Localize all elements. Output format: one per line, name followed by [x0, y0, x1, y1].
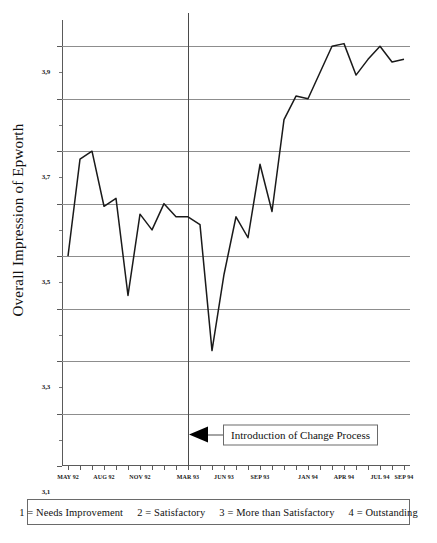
rating-scale-legend: 1 = Needs Improvement2 = Satisfactory3 =… [27, 499, 410, 525]
x-tick [224, 466, 225, 470]
x-tick [272, 466, 273, 470]
x-tick-label: JUN 93 [214, 474, 234, 480]
x-tick [212, 466, 213, 470]
arrow-left-icon [189, 427, 208, 443]
x-tick [284, 466, 285, 470]
x-tick [116, 466, 117, 470]
series-line-chart [62, 20, 410, 466]
annotation-connector [208, 434, 223, 435]
legend-entry: 2 = Satisfactory [137, 507, 205, 518]
legend-entry: 3 = More than Satisfactory [219, 507, 334, 518]
x-tick [380, 466, 381, 470]
x-tick [140, 466, 141, 470]
annotation-label: Introduction of Change Process [223, 424, 378, 445]
x-tick-label: AUG 92 [93, 474, 114, 480]
x-tick [248, 466, 249, 470]
x-tick [356, 466, 357, 470]
plot-area: 2,32,52,72,93,13,33,53,73,9 MAY 92AUG 92… [62, 20, 410, 466]
y-tick-label: 3,3 [42, 383, 50, 391]
x-tick-label: MAY 92 [57, 474, 79, 480]
x-tick [368, 466, 369, 470]
legend-entry: 1 = Needs Improvement [19, 507, 123, 518]
x-tick-label: JUL 94 [370, 474, 389, 480]
x-tick [332, 466, 333, 470]
x-tick-label: MAR 93 [177, 474, 199, 480]
x-tick-label: SEP 94 [395, 474, 414, 480]
x-tick [152, 466, 153, 470]
x-tick [404, 466, 405, 470]
legend-entry: 4 = Outstanding [349, 507, 418, 518]
chart-page: Overall Impression of Epworth 2,32,52,72… [0, 0, 437, 543]
x-tick [128, 466, 129, 470]
x-tick [68, 466, 69, 470]
x-tick [188, 466, 189, 470]
x-tick [164, 466, 165, 470]
y-axis-title: Overall Impression of Epworth [10, 10, 38, 430]
x-tick [392, 466, 393, 470]
y-tick-label: 3,7 [42, 173, 50, 181]
x-tick [344, 466, 345, 470]
y-tick-label: 3,5 [42, 278, 50, 286]
x-tick [176, 466, 177, 470]
x-tick [200, 466, 201, 470]
y-tick-label: 3,9 [42, 68, 50, 76]
x-tick [104, 466, 105, 470]
x-tick [296, 466, 297, 470]
y-tick: 2,3 [57, 466, 62, 467]
x-tick [260, 466, 261, 470]
x-tick [236, 466, 237, 470]
x-tick [92, 466, 93, 470]
change-process-annotation: Introduction of Change Process [189, 424, 378, 445]
x-tick [80, 466, 81, 470]
x-tick [308, 466, 309, 470]
x-tick [320, 466, 321, 470]
y-tick-label: 3,1 [42, 488, 50, 496]
series-line [68, 44, 404, 351]
x-tick-label: SEP 93 [251, 474, 270, 480]
x-tick-label: APR 94 [334, 474, 354, 480]
x-tick-label: JAN 94 [298, 474, 318, 480]
x-tick-label: NOV 92 [129, 474, 150, 480]
